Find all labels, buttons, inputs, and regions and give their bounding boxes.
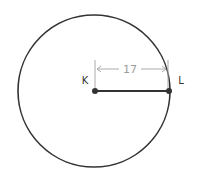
point-label-l: L [178,75,184,86]
center-point-k [92,88,98,94]
circle-diagram: 17 K L [0,0,201,181]
radius-length-label: 17 [123,63,137,76]
point-l [166,88,172,94]
center-label-k: K [82,75,89,86]
